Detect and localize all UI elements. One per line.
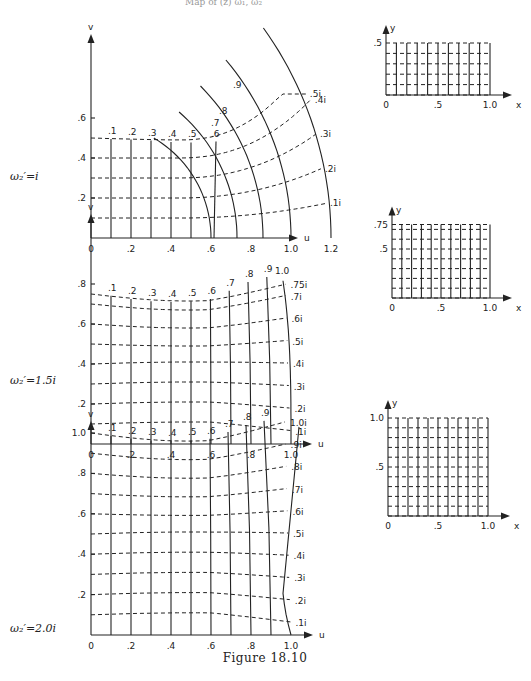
- x-curve-label: .5: [188, 427, 197, 437]
- y-curve-label: 1.0i: [290, 418, 307, 428]
- y-curve-label: .2i: [295, 596, 306, 606]
- y-curve-label: .5i: [293, 529, 304, 539]
- arrow-up-icon: [385, 400, 392, 409]
- y-tick-label: .6: [77, 113, 86, 123]
- w-plane-diagram-2: uv0.2.4.6.81.0.2.4.6.8ω₂′=1.5i.1.2.3.4.5…: [10, 202, 324, 460]
- x-tick-label: 1.2: [324, 244, 338, 254]
- x-curve-label: .7: [211, 118, 220, 128]
- y-tick-label: .8: [77, 279, 86, 289]
- x-tick-label: 0: [383, 100, 389, 110]
- x-tick-label: .5: [434, 521, 443, 531]
- y-curve: [91, 318, 287, 328]
- parameter-label: ω₂′=1.5i: [10, 374, 56, 387]
- page-header-fragment: Map of (z) ω₁, ω₂: [185, 0, 262, 7]
- x-curve: [154, 138, 211, 238]
- y-curve-label: .4i: [293, 359, 304, 369]
- y-tick-label: .4: [77, 359, 86, 369]
- x-tick-label: .5: [437, 303, 446, 313]
- arrow-right-icon: [303, 441, 312, 448]
- arrow-right-icon: [503, 92, 512, 99]
- x-curve-label: .8: [219, 106, 228, 116]
- figure-caption: Figure 18.10: [223, 651, 308, 665]
- arrow-up-icon: [389, 207, 396, 216]
- u-axis-label: u: [318, 439, 324, 449]
- y-tick-label: .6: [77, 509, 86, 519]
- x-curve-label: .4: [168, 428, 177, 438]
- x-tick-label: .6: [207, 641, 216, 651]
- y-curve-label: .9i: [291, 440, 302, 450]
- arrow-right-icon: [304, 632, 313, 639]
- x-curve-label: .8: [245, 269, 254, 279]
- x-tick-label: .4: [167, 244, 176, 254]
- x-curve-label: .4: [168, 289, 177, 299]
- y-axis-label: y: [390, 23, 396, 33]
- y-curve: [91, 382, 289, 386]
- w-plane-diagram-1: uv0.2.4.6.81.01.2.2.4.6ω₂′=i.1.2.3.4.5.6…: [10, 22, 341, 254]
- x-curve-label: .1: [108, 126, 117, 136]
- y-curve-label: .1i: [295, 427, 306, 437]
- x-curve-label: .2: [128, 286, 137, 296]
- y-curve: [91, 341, 287, 347]
- x-curve-label: .7: [225, 419, 234, 429]
- x-curve-label: 1.0: [275, 266, 290, 276]
- y-curve-label: .3i: [320, 129, 331, 139]
- y-curve-label: .6i: [292, 507, 303, 517]
- x-tick-label: 1.0: [481, 521, 496, 531]
- y-curve: [91, 511, 287, 516]
- x-tick-label: .5: [434, 100, 443, 110]
- y-tick-label: .5: [373, 38, 382, 48]
- x-curve: [228, 432, 231, 635]
- y-tick-label: 1.0: [370, 413, 385, 423]
- x-curve-label: .6: [207, 286, 216, 296]
- x-axis-label: x: [516, 303, 522, 313]
- y-curve: [91, 94, 306, 140]
- y-curve-label: .2i: [325, 164, 336, 174]
- x-tick-label: .4: [167, 641, 176, 651]
- x-curve-label: .2: [128, 426, 137, 436]
- y-curve: [91, 134, 316, 178]
- z-plane-grid-3: xy0.51.0.51.0: [370, 398, 520, 531]
- x-tick-label: 1.0: [284, 641, 299, 651]
- y-curve-label: .3i: [294, 382, 305, 392]
- x-curve: [210, 439, 211, 635]
- x-curve-label: .5: [188, 288, 197, 298]
- x-curve-label: .1: [108, 283, 117, 293]
- y-curve-label: .5i: [310, 89, 321, 99]
- x-curve: [267, 277, 271, 444]
- y-curve-label: .5i: [292, 337, 303, 347]
- arrow-right-icon: [503, 295, 512, 302]
- x-tick-label: .8: [247, 244, 256, 254]
- y-tick-label: .75: [374, 220, 388, 230]
- y-tick-label: 1.0: [72, 428, 87, 438]
- y-tick-label: .6: [77, 319, 86, 329]
- v-axis-label: v: [88, 202, 94, 212]
- y-curve-label: .1i: [295, 618, 306, 628]
- parameter-label: ω₂′=2.0i: [10, 622, 56, 635]
- x-axis-label: x: [516, 100, 522, 110]
- y-tick-label: .5: [375, 462, 384, 472]
- y-curve: [91, 362, 288, 364]
- x-tick-label: .6: [207, 244, 216, 254]
- x-tick-label: 0: [389, 303, 395, 313]
- y-tick-label: .2: [77, 590, 86, 600]
- x-curve-label: .9: [233, 80, 242, 90]
- arrow-up-icon: [88, 34, 95, 43]
- y-curve-label: .2i: [295, 404, 306, 414]
- arrow-right-icon: [289, 235, 298, 242]
- y-curve: [91, 402, 290, 408]
- y-curve-label: .1i: [330, 198, 341, 208]
- u-axis-label: u: [304, 233, 310, 243]
- x-curve-label: .3: [148, 128, 157, 138]
- x-curve-label: .6: [207, 426, 216, 436]
- arrow-up-icon: [383, 25, 390, 34]
- x-tick-label: .2: [127, 641, 136, 651]
- z-plane-grid-2: xy0.51.0.5.75: [374, 205, 522, 314]
- y-curve: [91, 572, 289, 577]
- y-tick-label: .5: [379, 244, 388, 254]
- y-curve: [91, 489, 287, 497]
- x-curve-label: .4: [168, 129, 177, 139]
- x-tick-label: 1.0: [483, 100, 498, 110]
- y-curve-label: .75i: [290, 280, 307, 290]
- y-tick-label: .2: [77, 399, 86, 409]
- x-curve-label: .5: [188, 129, 197, 139]
